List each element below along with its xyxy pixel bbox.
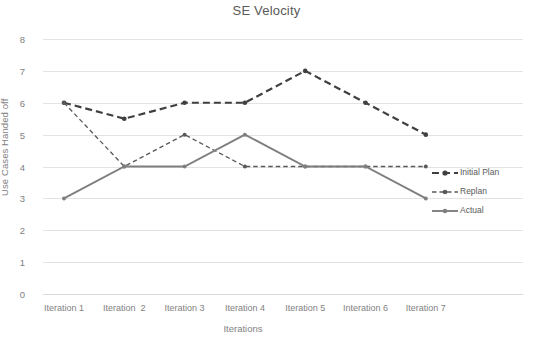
y-axis-title: Use Cases Handed off bbox=[0, 99, 10, 196]
legend-item-replan[interactable]: Replan bbox=[432, 182, 499, 201]
x-axis-tick-label: Iteration 5 bbox=[285, 303, 325, 313]
gridline bbox=[43, 262, 523, 263]
x-axis-tick-label: Iteration 1 bbox=[44, 303, 84, 313]
x-axis-tick-label: Iteration 3 bbox=[165, 303, 205, 313]
y-axis-tick-label: 4 bbox=[0, 161, 25, 172]
y-axis-tick-label: 0 bbox=[0, 289, 25, 300]
x-axis-tick-label: Iteration 4 bbox=[225, 303, 265, 313]
gridline bbox=[43, 135, 523, 136]
gridline bbox=[43, 71, 523, 72]
chart-legend: Initial PlanReplanActual bbox=[432, 163, 499, 220]
x-axis-tick-label: Iteration 2 bbox=[103, 303, 146, 313]
legend-item-label: Replan bbox=[460, 187, 487, 196]
y-axis-tick-label: 5 bbox=[0, 129, 25, 140]
y-axis-tick-label: 8 bbox=[0, 34, 25, 45]
y-axis-tick-label: 6 bbox=[0, 97, 25, 108]
gridline bbox=[43, 230, 523, 231]
legend-item-label: Actual bbox=[460, 206, 484, 215]
y-axis-tick-label: 7 bbox=[0, 65, 25, 76]
legend-item-label: Initial Plan bbox=[460, 168, 499, 177]
legend-item-initial-plan[interactable]: Initial Plan bbox=[432, 163, 499, 182]
legend-item-actual[interactable]: Actual bbox=[432, 201, 499, 220]
y-axis-tick-label: 2 bbox=[0, 225, 25, 236]
y-axis-tick-label: 1 bbox=[0, 257, 25, 268]
y-axis-tick-label: 3 bbox=[0, 193, 25, 204]
x-axis-title: Iterations bbox=[43, 323, 443, 334]
gridline bbox=[43, 39, 523, 40]
chart-container: SE Velocity Use Cases Handed off 0123456… bbox=[0, 0, 533, 343]
gridline bbox=[43, 294, 523, 295]
legend-swatch-icon bbox=[432, 206, 458, 216]
x-axis-tick-label: Interation 6 bbox=[343, 303, 388, 313]
gridline bbox=[43, 103, 523, 104]
legend-swatch-icon bbox=[432, 187, 458, 197]
legend-swatch-icon bbox=[432, 168, 458, 178]
x-axis-tick-label: Iteration 7 bbox=[406, 303, 446, 313]
chart-title: SE Velocity bbox=[0, 3, 533, 18]
